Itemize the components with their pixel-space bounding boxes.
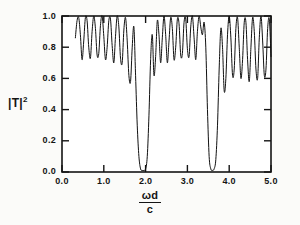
y-axis-label-base: |T|: [8, 96, 23, 110]
xtick-label-3: 2.0: [133, 176, 159, 186]
xtick-label-2: 1.0: [91, 176, 117, 186]
ytick-label-6: 0.0: [30, 166, 56, 176]
ytick-label-5: 0.2: [30, 135, 56, 145]
x-axis-label: ωd c: [0, 190, 300, 215]
xtick-label-4: 3.0: [174, 176, 200, 186]
x-axis-label-numerator: ωd: [139, 190, 162, 203]
x-axis-label-denominator: c: [139, 203, 162, 216]
ytick-label-2: 0.8: [30, 42, 56, 52]
ytick-label-1: 1.0: [30, 11, 56, 21]
plot-frame: [62, 16, 271, 172]
xtick-label-6: 5.0: [258, 176, 284, 186]
ytick-label-4: 0.4: [30, 104, 56, 114]
y-axis-label-exponent: 2: [23, 95, 28, 104]
y-axis-label: |T|2: [8, 95, 28, 110]
x-axis-label-fraction: ωd c: [139, 190, 162, 215]
ytick-label-3: 0.6: [30, 73, 56, 83]
xtick-label-1: 0.0: [49, 176, 75, 186]
transmission-spectrum-figure: 1.0 0.8 0.6 0.4 0.2 0.0 0.0 1.0 2.0 3.0 …: [0, 0, 300, 225]
xtick-label-5: 4.0: [216, 176, 242, 186]
